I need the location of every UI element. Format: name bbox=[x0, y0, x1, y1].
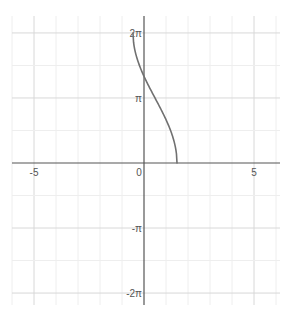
y-tick-label: π bbox=[135, 93, 142, 104]
y-tick-label: -2π bbox=[126, 288, 142, 299]
x-tick-label: 5 bbox=[251, 167, 257, 178]
y-tick-label: 2π bbox=[130, 28, 143, 39]
minor-gridlines bbox=[12, 16, 280, 305]
x-tick-labels: -505 bbox=[30, 167, 258, 178]
y-tick-label: -π bbox=[132, 223, 142, 234]
graph-plot: -505 2ππ-π-2π bbox=[0, 0, 290, 322]
x-tick-label: 0 bbox=[136, 167, 142, 178]
x-tick-label: -5 bbox=[30, 167, 39, 178]
